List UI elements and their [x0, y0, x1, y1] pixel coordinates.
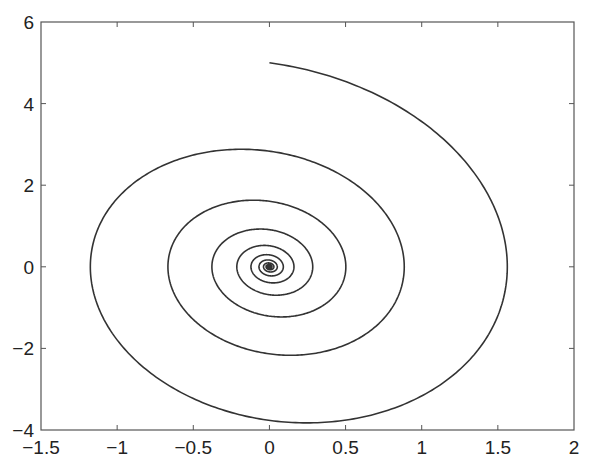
y-tick-label: 6 [23, 12, 34, 33]
x-tick-label: 1 [416, 437, 427, 458]
x-tick-label: 0 [264, 437, 275, 458]
x-tick-label: 2 [569, 437, 580, 458]
x-tick-labels: −1.5−1−0.500.511.52 [22, 437, 579, 458]
y-tick-label: 0 [23, 257, 34, 278]
x-tick-label: −1 [106, 437, 128, 458]
y-tick-labels: −4−20246 [12, 12, 34, 441]
plot-area [41, 22, 574, 430]
y-tick-label: −4 [12, 420, 34, 441]
y-tick-label: 4 [23, 94, 34, 115]
y-tick-label: 2 [23, 175, 34, 196]
x-tick-label: 1.5 [485, 437, 511, 458]
y-tick-label: −2 [12, 338, 34, 359]
spiral-chart: −1.5−1−0.500.511.52 −4−20246 [0, 0, 594, 466]
x-tick-label: 0.5 [332, 437, 358, 458]
x-tick-label: −0.5 [175, 437, 213, 458]
